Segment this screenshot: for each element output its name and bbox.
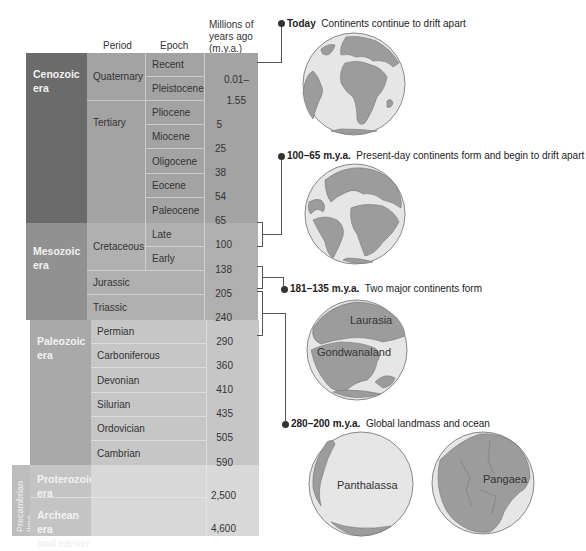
mya-value: 38 bbox=[196, 167, 226, 178]
mya-value: 0.01– bbox=[209, 74, 249, 85]
mya-value: 5 bbox=[192, 119, 222, 130]
period-label: Cambrian bbox=[97, 448, 140, 459]
epoch-label: Miocene bbox=[152, 131, 190, 142]
period-label: Carboniferous bbox=[97, 350, 160, 361]
mya-value: 65 bbox=[196, 215, 226, 226]
epoch-pleistocene: Pleistocene bbox=[145, 77, 204, 101]
period-label: Devonian bbox=[97, 375, 139, 386]
caption-bold: 280–200 m.y.a. bbox=[291, 418, 360, 429]
epoch-label: Pliocene bbox=[152, 107, 190, 118]
period-label: Silurian bbox=[97, 399, 130, 410]
period-label: Permian bbox=[97, 326, 134, 337]
header-mya: Millions of years ago (m.y.a.) bbox=[209, 19, 253, 55]
period-tertiary: Tertiary bbox=[87, 101, 145, 223]
period-carboniferous: Carboniferous bbox=[91, 344, 206, 368]
period-cretaceous: Cretaceous bbox=[87, 223, 145, 271]
era-paleozoic: Paleozoicera bbox=[30, 320, 91, 465]
caption-text: Global landmass and ocean bbox=[366, 418, 490, 429]
globe-100-65 bbox=[303, 162, 407, 266]
epoch-recent: Recent bbox=[145, 53, 204, 77]
mya-value: 435 bbox=[197, 408, 233, 419]
caption-bold: Today bbox=[287, 18, 316, 29]
period-cambrian: Cambrian bbox=[91, 441, 206, 465]
era-label: era bbox=[37, 348, 85, 362]
label-gondwanaland: Gondwanaland bbox=[317, 346, 391, 358]
epoch-label: Recent bbox=[152, 59, 184, 70]
period-label: Jurassic bbox=[93, 277, 130, 288]
header-period: Period bbox=[103, 40, 132, 52]
era-mesozoic: Mesozoicera bbox=[26, 223, 87, 320]
period-permian: Permian bbox=[91, 320, 206, 344]
mya-value: 4,600 bbox=[196, 523, 236, 534]
period-jurassic: Jurassic bbox=[87, 271, 204, 295]
caption-bold: 100–65 m.y.a. bbox=[287, 150, 351, 161]
connector-today-h bbox=[257, 62, 282, 63]
caption-280-200: 280–200 m.y.a. Global landmass and ocean bbox=[291, 418, 490, 429]
connector-280-200-h bbox=[263, 313, 285, 314]
era-cenozoic: Cenozoicera bbox=[26, 53, 87, 223]
period-label: Cretaceous bbox=[93, 241, 144, 252]
era-label: Cenozoic bbox=[33, 67, 80, 81]
bullet-icon bbox=[281, 286, 288, 293]
mya-value: 290 bbox=[197, 336, 233, 347]
connector-today-v bbox=[281, 25, 282, 63]
bullet-icon bbox=[282, 421, 289, 428]
era-label: era bbox=[33, 81, 80, 95]
era-label: Proterozoic bbox=[37, 472, 95, 486]
epoch-label: Late bbox=[152, 229, 171, 240]
bullet-icon bbox=[278, 20, 285, 27]
period-label: Ordovician bbox=[97, 423, 145, 434]
period-quaternary: Quaternary bbox=[87, 53, 145, 101]
mya-value: 590 bbox=[197, 457, 233, 468]
precambrian-fill-lower bbox=[91, 498, 206, 536]
header-epoch: Epoch bbox=[160, 40, 188, 52]
mya-value: 100 bbox=[196, 239, 232, 250]
mya-value: 25 bbox=[196, 143, 226, 154]
caption-text: Two major continents form bbox=[365, 283, 482, 294]
precambrian-fill-upper bbox=[91, 465, 206, 498]
period-devonian: Devonian bbox=[91, 368, 206, 393]
era-label: and earlier bbox=[37, 536, 91, 550]
mya-value: 1.55 bbox=[206, 95, 246, 106]
period-triassic: Triassic bbox=[87, 295, 204, 320]
mya-value: 240 bbox=[196, 312, 232, 323]
era-label: Mesozoic bbox=[33, 244, 80, 258]
connector-280-200-v bbox=[285, 313, 286, 424]
era-label: Paleozoic bbox=[37, 334, 85, 348]
mya-value: 138 bbox=[196, 264, 232, 275]
connector-181-135-h bbox=[263, 277, 283, 278]
caption-today: Today Continents continue to drift apart bbox=[287, 18, 466, 29]
mya-value: 410 bbox=[197, 384, 233, 395]
caption-100-65: 100–65 m.y.a. Present-day continents for… bbox=[287, 150, 584, 161]
label-laurasia: Laurasia bbox=[350, 314, 392, 326]
era-label: era bbox=[33, 258, 80, 272]
label-pangaea: Pangaea bbox=[483, 473, 527, 485]
epoch-label: Eocene bbox=[152, 180, 186, 191]
epoch-label: Pleistocene bbox=[152, 83, 204, 94]
period-ordovician: Ordovician bbox=[91, 417, 206, 441]
mya-value: 360 bbox=[197, 360, 233, 371]
period-label: Triassic bbox=[93, 302, 127, 313]
mya-value: 54 bbox=[196, 191, 226, 202]
caption-bold: 181–135 m.y.a. bbox=[290, 283, 359, 294]
epoch-label: Oligocene bbox=[152, 156, 197, 167]
era-archean: Archean eraand earlier bbox=[30, 498, 91, 536]
era-proterozoic: Proterozoicera bbox=[30, 465, 91, 498]
mya-value: 2,500 bbox=[196, 490, 236, 501]
epoch-label: Paleocene bbox=[152, 205, 199, 216]
label-panthalassa: Panthalassa bbox=[337, 479, 398, 491]
connector-100-65-h bbox=[263, 234, 281, 235]
period-label: Tertiary bbox=[93, 117, 126, 128]
caption-text: Continents continue to drift apart bbox=[321, 18, 466, 29]
caption-text: Present-day continents form and begin to… bbox=[356, 150, 584, 161]
mya-value: 205 bbox=[196, 288, 232, 299]
epoch-label: Early bbox=[152, 253, 175, 264]
bullet-icon bbox=[278, 153, 285, 160]
period-label: Quaternary bbox=[93, 71, 143, 82]
header-mya-line2: years ago bbox=[209, 31, 253, 43]
caption-181-135: 181–135 m.y.a. Two major continents form bbox=[290, 283, 482, 294]
mya-value: 505 bbox=[197, 432, 233, 443]
era-label: Archean era bbox=[37, 508, 91, 536]
period-silurian: Silurian bbox=[91, 393, 206, 417]
globe-today bbox=[301, 31, 407, 137]
